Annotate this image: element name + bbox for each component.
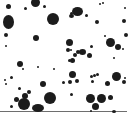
particle-dot — [33, 35, 39, 41]
particle-dot — [112, 110, 116, 113]
particle-dot — [24, 7, 27, 10]
particle-dot — [75, 79, 79, 83]
particle-dot — [86, 94, 95, 103]
particle-image — [0, 0, 131, 138]
particle-dot — [10, 76, 13, 79]
particle-dot — [47, 13, 59, 25]
baseline-line — [0, 111, 127, 112]
particle-dot — [69, 71, 76, 78]
particle-dot — [113, 57, 115, 59]
particle-dot — [37, 66, 39, 68]
particle-dot — [40, 81, 46, 87]
particle-dot — [106, 38, 115, 47]
particle-dot — [87, 53, 92, 58]
particle-dot — [6, 4, 11, 9]
particle-dot — [122, 48, 124, 50]
particle-dot — [92, 103, 99, 110]
particle-dot — [105, 81, 110, 86]
particle-dot — [53, 68, 55, 70]
particle-dot — [43, 5, 46, 8]
particle-dot — [99, 3, 101, 5]
particle-dot — [4, 79, 6, 81]
particle-dot — [44, 92, 56, 104]
particle-dot — [18, 87, 21, 90]
particle-dot — [115, 44, 121, 50]
particle-dot — [70, 93, 73, 96]
particle-dot — [66, 39, 73, 46]
particle-dot — [70, 49, 72, 51]
particle-dot — [112, 72, 121, 81]
particle-dot — [73, 53, 77, 57]
particle-dot — [97, 94, 106, 103]
particle-dot — [95, 20, 99, 24]
particle-dot — [102, 2, 104, 4]
particle-dot — [27, 90, 31, 94]
particle-dot — [124, 7, 126, 9]
particle-dot — [108, 95, 113, 100]
particle-dot — [90, 45, 93, 48]
particle-dot — [69, 14, 74, 18]
particle-dot — [32, 104, 44, 112]
particle-dot — [17, 61, 23, 67]
particle-dot — [104, 35, 106, 37]
particle-dot — [31, 0, 40, 7]
particle-dot — [5, 45, 7, 47]
particle-dot — [4, 33, 8, 37]
particle-dot — [85, 14, 88, 17]
particle-dot — [68, 59, 71, 62]
particle-dot — [62, 81, 65, 84]
particle-dot — [68, 80, 72, 84]
particle-dot — [124, 33, 128, 37]
particle-dot — [90, 110, 92, 112]
particle-dot — [18, 98, 30, 110]
particle-dot — [124, 77, 126, 79]
particle-dot — [5, 83, 7, 85]
particle-dot — [122, 80, 126, 84]
particle-dot — [122, 19, 126, 23]
particle-dot — [22, 68, 24, 70]
particle-dot — [96, 73, 99, 76]
particle-dot — [10, 105, 13, 108]
particle-dot — [3, 15, 14, 29]
particle-dot — [91, 80, 94, 83]
